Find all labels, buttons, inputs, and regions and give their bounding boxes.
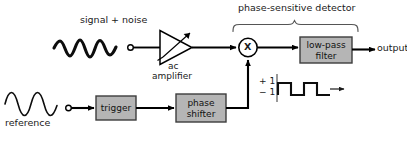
reference-label: reference <box>5 118 50 128</box>
phase-shifter-label-line2: shifter <box>176 109 226 119</box>
diagram-canvas <box>0 0 407 142</box>
signal-input-terminal <box>128 45 160 51</box>
minus-one-label: − 1 <box>259 88 275 97</box>
phase-sensitive-detector-label: phase-sensitive detector <box>238 3 355 13</box>
phase-sensitive-detector-brace <box>233 21 358 32</box>
signal-noise-waveform <box>54 40 116 57</box>
ac-amplifier-symbol <box>158 31 193 65</box>
signal-plus-noise-label: signal + noise <box>80 15 147 25</box>
phase-shifter-label-line1: phase <box>176 98 226 108</box>
mixer-symbol-label: X <box>244 42 251 52</box>
square-wave-plot <box>277 74 344 102</box>
low-pass-filter-label-line1: low-pass <box>300 40 352 50</box>
output-label: output <box>377 43 407 53</box>
reference-waveform <box>5 93 57 116</box>
ac-amplifier-label-line2: amplifier <box>152 72 192 81</box>
low-pass-filter-label-line2: filter <box>300 51 352 61</box>
phase-sensitive-detector-diagram: signal + noise ac amplifier phase-sensit… <box>0 0 407 142</box>
shifter-to-mixer-wire <box>226 60 248 108</box>
trigger-label: trigger <box>96 103 136 113</box>
plus-one-label: + 1 <box>259 77 275 86</box>
reference-input-terminal <box>66 105 94 111</box>
